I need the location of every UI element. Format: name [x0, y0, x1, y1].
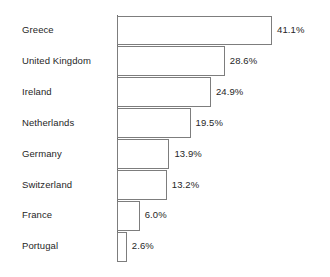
bar — [117, 232, 127, 262]
bar-row: Portugal2.6% — [0, 231, 330, 262]
bar — [117, 170, 167, 200]
bar-value-label: 24.9% — [216, 77, 243, 108]
category-label: Netherlands — [22, 108, 74, 139]
bar-row: Greece41.1% — [0, 15, 330, 46]
bar-value-label: 13.9% — [174, 139, 201, 170]
bar — [117, 139, 169, 169]
bar-chart: Greece41.1%United Kingdom28.6%Ireland24.… — [0, 0, 330, 277]
category-label: Portugal — [22, 231, 58, 262]
category-label: United Kingdom — [22, 46, 91, 77]
bar-row: Ireland24.9% — [0, 77, 330, 108]
category-label: Germany — [22, 139, 62, 170]
bar-value-label: 13.2% — [172, 170, 199, 201]
bar-value-label: 41.1% — [277, 15, 304, 46]
bar — [117, 77, 211, 107]
bar-row: France6.0% — [0, 200, 330, 231]
bar-value-label: 19.5% — [196, 108, 223, 139]
bar-row: Netherlands19.5% — [0, 108, 330, 139]
bar — [117, 16, 272, 46]
bar-value-label: 6.0% — [145, 200, 167, 231]
category-label: France — [22, 200, 52, 231]
category-label: Ireland — [22, 77, 52, 108]
bar — [117, 46, 225, 76]
bar-value-label: 28.6% — [230, 46, 257, 77]
bar — [117, 201, 140, 231]
bar — [117, 108, 191, 138]
bar-row: United Kingdom28.6% — [0, 46, 330, 77]
bar-row: Germany13.9% — [0, 139, 330, 170]
category-label: Greece — [22, 15, 54, 46]
bar-row: Switzerland13.2% — [0, 170, 330, 201]
category-label: Switzerland — [22, 170, 72, 201]
bar-value-label: 2.6% — [132, 231, 154, 262]
